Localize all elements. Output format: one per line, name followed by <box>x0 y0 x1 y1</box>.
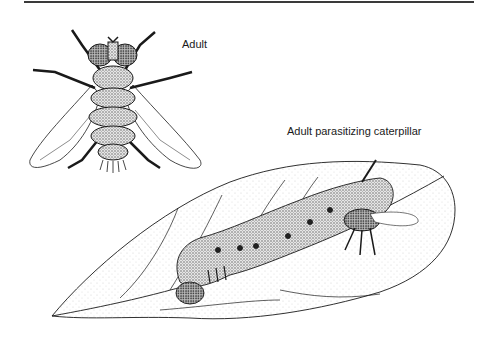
left-wing <box>30 85 100 168</box>
right-wing <box>125 85 201 168</box>
caterpillar-head <box>176 282 204 304</box>
adult-fly-drawing <box>30 30 201 173</box>
illustration <box>0 0 493 347</box>
